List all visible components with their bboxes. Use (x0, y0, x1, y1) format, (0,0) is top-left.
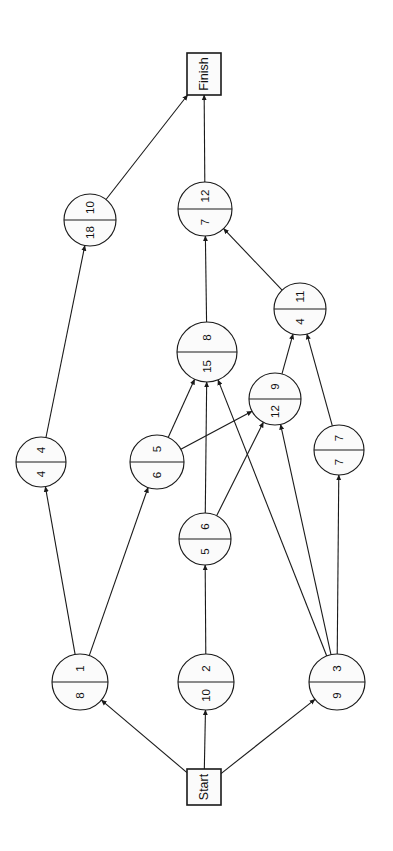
node-label-left: 9 (269, 383, 281, 389)
node-n4[interactable]: 44 (16, 437, 66, 487)
node-label-right: 5 (199, 548, 211, 554)
node-n5[interactable]: 56 (130, 435, 184, 489)
edge-n5-to-n9 (181, 411, 252, 449)
node-label-right: 7 (199, 219, 211, 225)
node-label-left: 10 (84, 201, 96, 214)
node-label-right: 9 (331, 692, 343, 698)
node-n11[interactable]: 114 (274, 283, 326, 335)
node-label-left: 6 (199, 523, 211, 529)
node-n7[interactable]: 77 (314, 425, 364, 475)
edge-n6-to-n8 (205, 382, 206, 513)
edge-start-to-n2 (204, 710, 205, 769)
node-label-left: 8 (201, 334, 213, 340)
node-label-right: 18 (84, 226, 96, 239)
node-label-right: 7 (333, 459, 345, 465)
node-label-left: 7 (333, 435, 345, 441)
node-n8[interactable]: 815 (177, 322, 237, 382)
node-label-left: 12 (199, 190, 211, 203)
node-label-right: 4 (35, 470, 47, 477)
node-label-left: 11 (294, 291, 306, 303)
edge-n10-to-finish (106, 95, 188, 200)
edge-n4-to-n10 (46, 245, 85, 437)
edge-n1-to-n4 (45, 487, 75, 655)
edge-start-to-n1 (101, 700, 187, 773)
node-n10[interactable]: 1018 (64, 194, 116, 246)
node-n6[interactable]: 65 (179, 513, 231, 565)
edge-n11-to-n12 (224, 229, 282, 291)
node-label-left: 1 (74, 665, 86, 671)
edge-n1-to-n5 (89, 487, 148, 655)
node-layer: 1821039445665778159121018114127StartFini… (16, 53, 365, 805)
network-diagram: 1821039445665778159121018114127StartFini… (0, 0, 393, 851)
node-n3[interactable]: 39 (309, 654, 365, 710)
edge-start-to-n3 (221, 699, 315, 773)
node-label-left: 4 (35, 446, 47, 453)
finish-node[interactable]: Finish (187, 53, 221, 95)
node-n2[interactable]: 210 (178, 654, 234, 710)
node-label-right: 6 (151, 472, 163, 478)
edge-n5-to-n8 (168, 379, 194, 437)
node-label-right: 15 (201, 360, 213, 373)
edge-n7-to-n11 (307, 334, 332, 426)
node-label-left: 3 (331, 665, 343, 671)
node-label-right: 8 (74, 692, 86, 698)
edge-n12-to-finish (204, 95, 205, 182)
node-label-left: 2 (200, 665, 212, 671)
finish-node-label: Finish (197, 57, 211, 90)
node-label-right: 12 (269, 405, 281, 418)
node-label-right: 4 (294, 318, 306, 325)
diagram-canvas: 1821039445665778159121018114127StartFini… (0, 0, 393, 851)
start-node-label: Start (197, 773, 211, 800)
node-label-left: 5 (151, 446, 163, 452)
edge-n3-to-n7 (337, 475, 339, 654)
edge-n9-to-n11 (282, 334, 293, 374)
edge-n2-to-n6 (205, 565, 206, 654)
node-label-right: 10 (200, 689, 212, 702)
node-n12[interactable]: 127 (178, 182, 232, 236)
node-n1[interactable]: 18 (52, 654, 108, 710)
start-node[interactable]: Start (187, 769, 221, 805)
node-n9[interactable]: 912 (249, 373, 301, 425)
edge-n8-to-n12 (205, 236, 206, 322)
